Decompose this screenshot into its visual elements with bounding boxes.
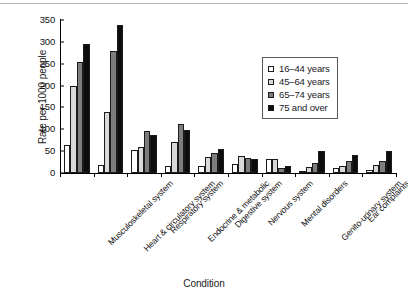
x-tick-mark [228, 173, 229, 177]
x-tick-mark [295, 173, 296, 177]
x-tick-mark [194, 173, 195, 177]
legend-item: 16–44 years [268, 62, 330, 75]
bar [386, 151, 392, 173]
y-tick-mark [60, 63, 64, 64]
bar [218, 149, 224, 173]
y-tick-mark [60, 20, 64, 21]
bar [117, 25, 123, 173]
bar [150, 135, 156, 173]
legend-swatch-icon [268, 105, 274, 111]
bar [285, 166, 291, 173]
legend-swatch-icon [268, 79, 274, 85]
y-tick-label: 150 [0, 103, 60, 113]
x-tick-mark [329, 173, 330, 177]
legend-item: 65–74 years [268, 88, 330, 101]
x-tick-mark [94, 173, 95, 177]
legend-item: 75 and over [268, 101, 330, 114]
chart-figure: Rate per 1000 people 0501001502002503003… [0, 0, 408, 300]
legend-swatch-icon [268, 66, 274, 72]
x-tick-mark [262, 173, 263, 177]
bar [352, 155, 358, 173]
x-axis-title: Condition [0, 278, 408, 289]
legend: 16–44 years45–64 years65–74 years75 and … [262, 57, 338, 119]
top-divider [0, 3, 408, 4]
y-tick-label: 350 [0, 15, 60, 25]
bar [251, 159, 257, 173]
y-tick-label: 300 [0, 37, 60, 47]
x-tick-mark [60, 173, 61, 177]
bar [184, 130, 190, 173]
x-tick-mark [161, 173, 162, 177]
legend-label: 65–74 years [279, 89, 330, 100]
x-tick-mark [127, 173, 128, 177]
legend-label: 16–44 years [279, 63, 330, 74]
bar [83, 44, 89, 173]
legend-label: 75 and over [279, 102, 328, 113]
y-tick-label: 0 [0, 168, 60, 178]
y-tick-mark [60, 129, 64, 130]
y-tick-mark [60, 107, 64, 108]
y-tick-label: 250 [0, 59, 60, 69]
bar [318, 151, 324, 173]
legend-swatch-icon [268, 92, 274, 98]
y-tick-mark [60, 41, 64, 42]
x-tick-mark [396, 173, 397, 177]
x-tick-mark [362, 173, 363, 177]
y-tick-label: 200 [0, 81, 60, 91]
y-tick-mark [60, 85, 64, 86]
y-tick-label: 100 [0, 125, 60, 135]
legend-label: 45–64 years [279, 76, 330, 87]
legend-item: 45–64 years [268, 75, 330, 88]
y-tick-label: 50 [0, 146, 60, 156]
